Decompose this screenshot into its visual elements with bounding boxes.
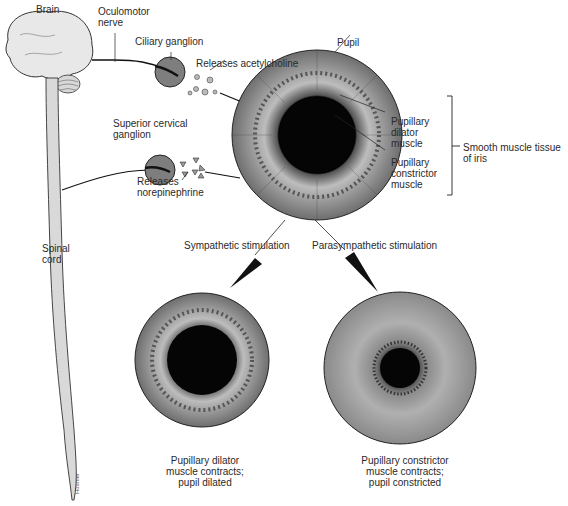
- iris-constricted: [324, 292, 476, 444]
- iris-dilated: [135, 293, 269, 427]
- releases-acetylcholine-label: Releases acetylcholine: [196, 58, 298, 69]
- bracket: [447, 96, 460, 195]
- releases-norepinephrine-label: Releases norepinephrine: [137, 176, 204, 198]
- iris-main: [232, 50, 402, 220]
- acetylcholine-molecules: [188, 75, 217, 96]
- pupillary-constrictor-muscle-label: Pupillary constrictor muscle: [391, 157, 437, 190]
- pupil-label: Pupil: [337, 37, 359, 48]
- pupillary-dilator-muscle-label: Pupillary dilator muscle: [391, 116, 429, 149]
- constricted-caption: Pupillary constrictor muscle contracts; …: [355, 455, 455, 488]
- brain-label: Brain: [36, 4, 59, 15]
- parasympathetic-arrow: [345, 252, 378, 292]
- superior-cervical-ganglion-label: Superior cervical ganglion: [113, 118, 187, 140]
- sympathetic-arrow: [230, 258, 262, 288]
- dilated-caption: Pupillary dilator muscle contracts; pupi…: [165, 455, 245, 488]
- artist-signature: Hosmer: [74, 473, 80, 494]
- smooth-muscle-tissue-label: Smooth muscle tissue of iris: [463, 142, 561, 164]
- spinal-cord-label: Spinal cord: [42, 243, 70, 265]
- sympathetic-stimulation-label: Sympathetic stimulation: [184, 240, 290, 251]
- parasympathetic-stimulation-label: Parasympathetic stimulation: [312, 240, 437, 251]
- oculomotor-nerve-label: Oculomotor nerve: [98, 6, 150, 28]
- norepinephrine-molecules: [180, 158, 205, 178]
- diagram-art: [0, 0, 568, 506]
- ciliary-ganglion-label: Ciliary ganglion: [135, 36, 203, 47]
